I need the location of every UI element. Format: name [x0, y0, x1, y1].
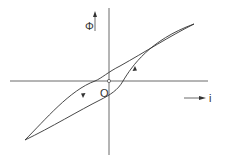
y-axis-label: Φ [85, 20, 94, 32]
arrow-down-icon [81, 93, 86, 98]
origin-label: O [100, 87, 109, 99]
i-arrow-icon [199, 96, 206, 100]
x-axis-label: i [209, 92, 211, 104]
hysteresis-diagram: Φ i O [0, 0, 225, 160]
origin-point [107, 79, 110, 82]
phi-arrow-icon [93, 11, 97, 17]
